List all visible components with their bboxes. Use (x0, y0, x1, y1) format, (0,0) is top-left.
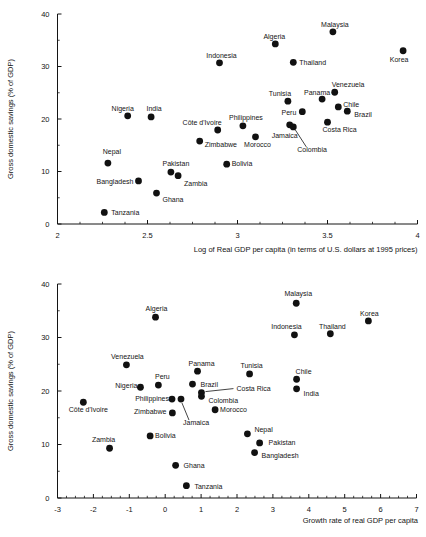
data-point-bolivia (147, 433, 154, 440)
data-point-venezuela (123, 361, 130, 368)
point-label-korea: Korea (360, 310, 379, 317)
y-tick-label: 40 (41, 10, 49, 19)
point-label-tanzania: Tanzania (111, 209, 139, 216)
data-point-malaysia (330, 28, 337, 35)
point-label-venezuela: Venezuela (332, 81, 365, 88)
point-label-bangladesh: Bangladesh (97, 178, 134, 186)
data-points: MalaysiaAlgeriaKoreaThailandIndonesiaVen… (97, 21, 409, 217)
point-label-india: India (147, 105, 162, 112)
point-label-thailand: Thailand (319, 323, 346, 330)
data-point-jamaica (178, 396, 185, 403)
point-label-pakistan: Pakistan (269, 439, 296, 446)
point-label-algeria: Algeria (146, 305, 168, 313)
x-axis-title: Log of Real GDP per capita (in terms of … (194, 245, 418, 254)
data-point-malaysia (293, 300, 300, 307)
point-label-nepal: Nepal (103, 148, 122, 156)
point-label-c-te-d-ivoire: Côte d'Ivoire (183, 119, 222, 126)
x-axis-ticks (58, 494, 417, 498)
point-label-nepal: Nepal (254, 426, 273, 434)
point-label-peru: Peru (155, 373, 170, 380)
x-tick-label: 2 (235, 505, 239, 514)
data-point-philippines (169, 396, 176, 403)
y-tick-label: 30 (41, 333, 49, 342)
y-axis-ticks (58, 14, 62, 224)
point-label-malaysia: Malaysia (321, 21, 349, 29)
data-point-pakistan (256, 439, 263, 446)
data-point-korea (400, 47, 407, 54)
leader-line-costa-rica (205, 389, 233, 392)
x-tick-label: 1 (199, 505, 203, 514)
point-label-ghana: Ghana (163, 196, 184, 203)
x-tick-label: 6 (379, 505, 383, 514)
data-point-philippines (240, 122, 247, 129)
point-label-venezuela: Venezuela (111, 353, 144, 360)
data-point-peru (299, 108, 306, 115)
data-point-c-te-d-ivoire (214, 127, 221, 134)
y-tick-label: 30 (41, 62, 49, 71)
data-point-colombia (198, 393, 205, 400)
data-point-tunisia (246, 370, 253, 377)
data-point-nepal (244, 430, 251, 437)
data-point-panama (319, 96, 326, 103)
point-label-zambia: Zambia (184, 180, 207, 187)
point-label-morocco: Morocco (220, 406, 247, 413)
x-tick-label: 4 (415, 231, 419, 240)
y-tick-label: 10 (41, 440, 49, 449)
x-axis-ticks (58, 220, 418, 224)
point-label-india: India (304, 390, 319, 397)
x-tick-label: 3 (271, 505, 275, 514)
data-point-tanzania (183, 482, 190, 489)
point-label-pakistan: Pakistan (162, 160, 189, 167)
data-point-chile (293, 376, 300, 383)
point-label-tanzania: Tanzania (194, 483, 222, 490)
data-point-nepal (105, 160, 112, 167)
data-point-zimbabwe (196, 138, 203, 145)
y-tick-label: 0 (45, 220, 49, 229)
point-label-zimbabwe: Zimbabwe (134, 408, 166, 415)
point-label-nigeria: Nigeria (112, 105, 134, 113)
y-tick-label: 20 (41, 115, 49, 124)
x-tick-label: 2.5 (142, 231, 152, 240)
x-tick-label: 0 (163, 505, 167, 514)
point-label-morocco: Morocco (244, 141, 271, 148)
point-label-malaysia: Malaysia (284, 290, 312, 298)
point-label-bolivia: Bolivia (232, 160, 253, 167)
point-label-indonesia: Indonesia (206, 52, 236, 59)
data-point-colombia (290, 123, 297, 130)
point-label-bolivia: Bolivia (155, 432, 176, 439)
x-tick-label: 3.5 (322, 231, 332, 240)
data-point-tanzania (101, 209, 108, 216)
data-point-brazil (189, 381, 196, 388)
point-label-costa-rica: Costa Rica (236, 385, 270, 392)
data-point-india (293, 385, 300, 392)
x-axis-title: Growth rate of real GDP per capita (303, 516, 419, 525)
data-point-india (148, 114, 155, 121)
point-label-nigeria: Nigeria (115, 382, 137, 390)
point-label-zambia: Zambia (92, 436, 115, 443)
point-label-peru: Peru (282, 109, 297, 116)
point-label-algeria: Algeria (263, 33, 285, 41)
point-label-bangladesh: Bangladesh (262, 452, 299, 460)
data-point-morocco (252, 133, 259, 140)
x-tick-label: 5 (343, 505, 347, 514)
point-label-tunisia: Tunisia (240, 362, 262, 369)
x-tick-label: -2 (90, 505, 97, 514)
point-label-philippines: Philippines (229, 114, 263, 122)
data-point-thailand (327, 330, 334, 337)
leader-line-jamaica (182, 403, 189, 420)
bottom-scatter-chart: -3-2-101234567010203040Growth rate of re… (0, 268, 426, 537)
point-label-zimbabwe: Zimbabwe (205, 141, 237, 148)
data-point-zambia (106, 445, 113, 452)
data-point-zimbabwe (169, 410, 176, 417)
data-point-brazil (344, 108, 351, 115)
point-label-brazil: Brazil (354, 111, 372, 118)
y-tick-label: 20 (41, 387, 49, 396)
point-label-brazil: Brazil (200, 381, 218, 388)
point-label-jamaica: Jamaica (272, 132, 298, 139)
point-label-c-te-d-ivoire: Côte d'Ivoire (69, 406, 108, 413)
point-label-indonesia: Indonesia (271, 323, 301, 330)
top-scatter-chart: 22.533.54010203040Log of Real GDP per ca… (0, 0, 426, 268)
data-point-zambia (175, 172, 182, 179)
point-label-colombia: Colombia (208, 397, 238, 404)
data-point-korea (365, 318, 372, 325)
